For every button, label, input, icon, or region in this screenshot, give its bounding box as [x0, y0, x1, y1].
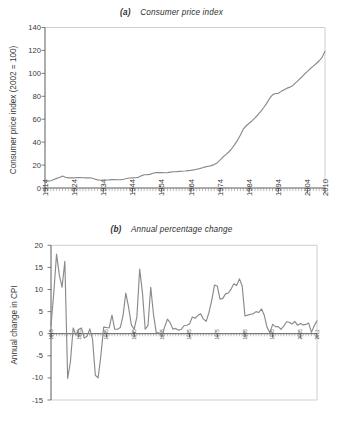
chart-b-xtick-2011: 2011	[315, 329, 320, 339]
chart-a-x-tick-labels: 1914192419341944195419641974198419942004…	[41, 179, 330, 196]
chart-a-ytick-120: 120	[28, 46, 41, 55]
chart-a-canvas: Consumer price index (2002 = 100) 0 20 4…	[0, 0, 343, 215]
chart-a-xtick-1994: 1994	[274, 179, 283, 196]
chart-a-xtick-1954: 1954	[157, 179, 166, 196]
chart-b-svg: Annual change in CPI 20 15 10 5 0 -5 -10…	[0, 215, 343, 426]
chart-a-ytick-80: 80	[33, 92, 41, 101]
chart-a-xtick-2010: 2010	[321, 179, 330, 196]
chart-b-canvas: Annual change in CPI 20 15 10 5 0 -5 -10…	[0, 215, 343, 426]
chart-b-ytick-20: 20	[35, 241, 43, 250]
chart-b-ytick-0: 0	[39, 329, 43, 338]
chart-a-xtick-1964: 1964	[187, 179, 196, 196]
chart-a-xtick-2004: 2004	[303, 179, 312, 196]
chart-a-ytick-40: 40	[33, 138, 41, 147]
chart-a-ytick-140: 140	[28, 23, 41, 32]
chart-b-ytick-15: 15	[35, 263, 43, 272]
chart-b-xtick-1965: 1965	[187, 329, 192, 340]
chart-b-y-axis-title: Annual change in CPI	[10, 285, 19, 364]
chart-b-xtick-1975: 1975	[215, 329, 220, 340]
chart-b-xtick-1935: 1935	[104, 329, 109, 340]
chart-b-xtick-1915: 1915	[49, 329, 54, 340]
chart-a-svg: Consumer price index (2002 = 100) 0 20 4…	[0, 0, 343, 215]
chart-b-ytick-neg15: -15	[32, 396, 43, 405]
chart-b-xtick-2005: 2005	[298, 329, 303, 340]
chart-b-ytick-neg5: -5	[36, 351, 43, 360]
chart-a-xtick-1924: 1924	[70, 179, 79, 196]
chart-a-xtick-1984: 1984	[245, 179, 254, 196]
chart-b-ytick-10: 10	[35, 285, 43, 294]
chart-a-xtick-1934: 1934	[99, 179, 108, 196]
chart-a-y-ticks	[42, 28, 46, 189]
chart-b-ytick-5: 5	[39, 307, 43, 316]
chart-a-ytick-20: 20	[33, 161, 41, 170]
chart-b-xtick-1985: 1985	[243, 329, 248, 340]
chart-a-xtick-1944: 1944	[128, 179, 137, 196]
chart-a-series-line	[45, 51, 325, 181]
chart-a-ytick-60: 60	[33, 115, 41, 124]
figure-container: (a) Consumer price index Consumer price …	[0, 0, 343, 426]
chart-b-series-line	[51, 254, 317, 378]
chart-b-y-ticks	[48, 245, 52, 400]
chart-a-y-axis-title: Consumer price index (2002 = 100)	[9, 45, 18, 174]
chart-b-xtick-1945: 1945	[132, 329, 137, 340]
chart-b-xtick-1925: 1925	[77, 329, 82, 340]
chart-a-xtick-1974: 1974	[216, 179, 225, 196]
chart-a-ytick-100: 100	[28, 69, 41, 78]
chart-b-ytick-neg10: -10	[32, 373, 43, 382]
chart-panel-a: (a) Consumer price index Consumer price …	[0, 0, 343, 215]
chart-panel-b: (b) Annual percentage change Annual chan…	[0, 215, 343, 426]
